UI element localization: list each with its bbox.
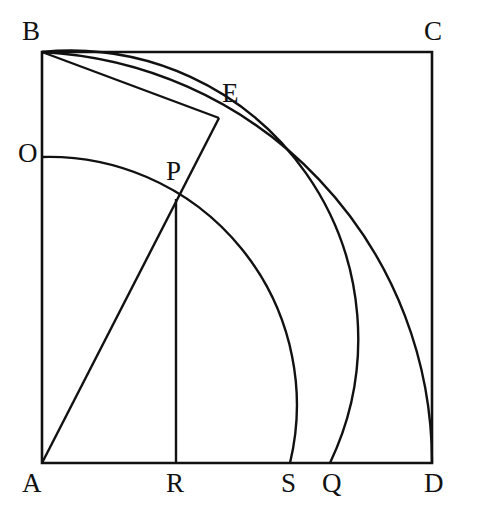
point-label-e: E bbox=[222, 80, 239, 107]
arc-b-q bbox=[42, 51, 358, 463]
arc-o-s bbox=[42, 157, 297, 463]
point-label-d: D bbox=[424, 470, 444, 497]
point-label-r: R bbox=[166, 470, 184, 497]
point-label-o: O bbox=[18, 140, 38, 167]
point-label-s: S bbox=[281, 470, 296, 497]
point-label-a: A bbox=[22, 470, 42, 497]
geometry-figure bbox=[0, 0, 478, 517]
arc-b-d bbox=[42, 52, 432, 463]
point-label-b: B bbox=[22, 18, 40, 45]
point-label-p: P bbox=[166, 158, 181, 185]
segment-b-e bbox=[42, 52, 219, 118]
point-label-q: Q bbox=[322, 470, 342, 497]
point-label-c: C bbox=[424, 18, 442, 45]
diagram-canvas: B C E O P A R S Q D bbox=[0, 0, 478, 517]
